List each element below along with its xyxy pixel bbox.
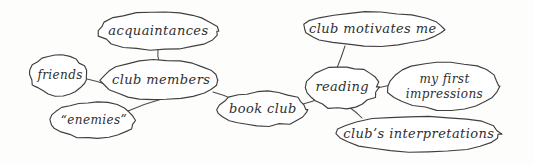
node-book-club[interactable]: book club	[217, 91, 308, 127]
node-label-club-motivates-me: club motivates me	[309, 21, 436, 36]
node-friends[interactable]: friends	[30, 55, 87, 96]
node-label-enemies: “enemies”	[61, 113, 127, 127]
node-label-book-club: book club	[229, 101, 297, 116]
node-label-reading: reading	[315, 79, 369, 94]
node-club-members[interactable]: club members	[100, 59, 218, 99]
node-label-line: club members	[112, 72, 210, 87]
node-enemies[interactable]: “enemies”	[50, 102, 136, 138]
edge-club-motivates-me--reading	[337, 46, 345, 68]
mindmap-canvas: acquaintancesfriendsclub members“enemies…	[0, 0, 534, 164]
node-label-line: book club	[229, 101, 297, 116]
edge-enemies--club-members	[128, 99, 162, 111]
node-label-line: “enemies”	[61, 113, 127, 127]
node-label-line: club’s interpretations	[343, 126, 494, 141]
node-label-line: my first	[419, 71, 469, 85]
node-acquaintances[interactable]: acquaintances	[98, 12, 219, 50]
mindmap-diagram: acquaintancesfriendsclub members“enemies…	[0, 0, 534, 164]
node-label-line: club motivates me	[309, 21, 436, 36]
edge-reading--clubs-interpretations	[349, 107, 362, 118]
node-label-line: impressions	[406, 86, 483, 100]
node-label-line: acquaintances	[108, 23, 208, 38]
node-reading[interactable]: reading	[305, 67, 379, 109]
node-label-acquaintances: acquaintances	[108, 23, 208, 38]
node-club-motivates-me[interactable]: club motivates me	[304, 12, 445, 47]
node-clubs-interpretations[interactable]: club’s interpretations	[336, 116, 502, 152]
node-label-clubs-interpretations: club’s interpretations	[343, 126, 494, 141]
node-label-friends: friends	[36, 68, 83, 82]
node-label-line: friends	[36, 68, 83, 82]
node-my-first-impressions[interactable]: my firstimpressions	[388, 62, 500, 110]
node-label-club-members: club members	[112, 72, 210, 87]
node-label-line: reading	[315, 79, 369, 94]
